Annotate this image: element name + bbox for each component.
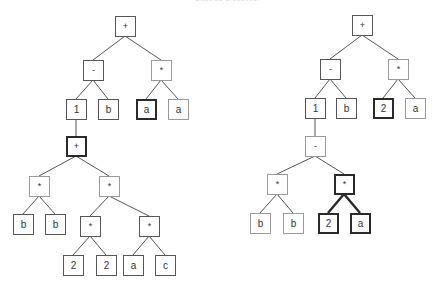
node-label: a: [131, 261, 137, 271]
left-node-two-b: 2: [96, 255, 117, 276]
left-node-times-top: *: [151, 60, 172, 81]
node-label: a: [144, 105, 150, 115]
left-node-one: 1: [66, 99, 87, 120]
left-node-times-ac: *: [139, 216, 160, 237]
left-node-a: a: [168, 99, 189, 120]
node-label: +: [123, 22, 128, 31]
left-node-plus-selected: +: [66, 136, 87, 157]
right-node-times-top: *: [388, 59, 409, 80]
right-node-times-bb: *: [267, 174, 288, 195]
node-label: 2: [381, 104, 387, 114]
right-node-minus-low: -: [305, 136, 326, 157]
left-node-b-right: b: [45, 214, 66, 235]
left-node-minus: -: [83, 60, 104, 81]
node-label: -: [92, 66, 95, 75]
left-node-b-left: b: [13, 214, 34, 235]
node-label: b: [106, 105, 112, 115]
node-label: a: [358, 219, 364, 229]
node-label: *: [160, 66, 164, 75]
node-label: +: [360, 21, 365, 30]
left-node-c-low: c: [155, 255, 176, 276]
node-label: 2: [326, 219, 332, 229]
right-tree-bold-edges: [328, 194, 360, 213]
node-label: *: [397, 65, 401, 74]
right-node-minus: -: [320, 59, 341, 80]
right-node-one: 1: [305, 98, 326, 119]
left-node-a-low: a: [123, 255, 144, 276]
node-label: *: [148, 222, 152, 231]
node-label: b: [53, 220, 59, 230]
node-label: 1: [74, 105, 80, 115]
right-node-two-low-selected: 2: [318, 213, 339, 234]
node-label: -: [329, 65, 332, 74]
left-node-times-right: *: [99, 176, 120, 197]
node-label: -: [314, 142, 317, 151]
node-label: a: [413, 104, 419, 114]
node-label: a: [176, 105, 182, 115]
node-label: b: [291, 219, 297, 229]
node-label: *: [343, 180, 347, 189]
node-label: 1: [313, 104, 319, 114]
node-label: b: [21, 220, 27, 230]
right-node-b-top: b: [336, 98, 357, 119]
right-node-times-selected: *: [334, 174, 355, 195]
left-node-two-a: 2: [63, 255, 84, 276]
node-label: b: [344, 104, 350, 114]
right-node-two-selected: 2: [373, 98, 394, 119]
node-label: *: [276, 180, 280, 189]
right-node-a-low-selected: a: [350, 213, 371, 234]
left-node-a-selected: a: [136, 99, 157, 120]
left-node-times-bb: *: [29, 176, 50, 197]
left-node-times-22: *: [80, 216, 101, 237]
node-label: b: [258, 219, 264, 229]
node-label: 2: [71, 261, 77, 271]
right-node-b-right: b: [283, 213, 304, 234]
node-label: *: [108, 182, 112, 191]
left-node-root-plus: +: [115, 16, 136, 37]
right-node-a: a: [405, 98, 426, 119]
node-label: *: [38, 182, 42, 191]
left-node-b-top: b: [98, 99, 119, 120]
right-node-b-left: b: [250, 213, 271, 234]
node-label: +: [74, 142, 79, 151]
right-node-root-plus: +: [352, 15, 373, 36]
node-label: c: [163, 261, 168, 271]
node-label: 2: [104, 261, 110, 271]
node-label: *: [89, 222, 93, 231]
